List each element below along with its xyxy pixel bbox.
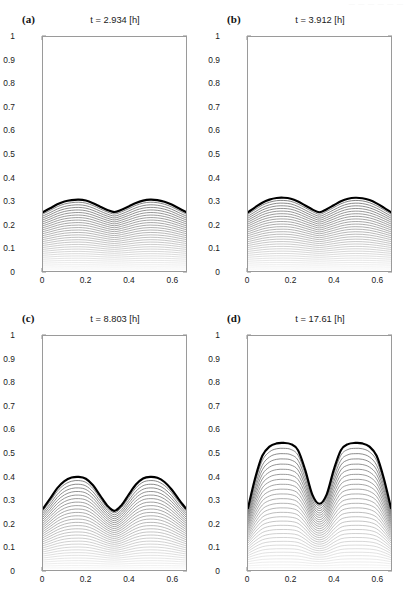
y-tick-label: 1 [215,32,220,40]
x-tick-label: 0.6 [167,276,179,284]
y-tick-label: 0 [215,268,220,276]
x-tick-label: 0.2 [80,276,92,284]
y-tick-label: 1 [10,32,15,40]
y-tick-label: 0.1 [3,543,15,551]
panel-b: (b)t = 3.912 [h]00.10.20.30.40.50.60.70.… [205,0,410,299]
contour-line [248,253,391,255]
y-tick-label: 0.3 [208,197,220,205]
contour-plot-b [248,37,391,271]
plot-area-b [247,36,392,272]
contour-levels [248,200,391,269]
y-tick-label: 0.9 [3,354,15,362]
y-tick-label: 0.9 [208,55,220,63]
y-tick-label: 1 [215,331,220,339]
x-tick-label: 0.4 [328,575,340,583]
contour-line [248,260,391,261]
x-tick-label: 0.6 [372,575,384,583]
figure-container: — — — — — — (a)t = 2.934 [h]00.10.20.30.… [0,0,410,598]
contour-line [248,258,391,259]
contour-levels [248,448,391,568]
y-tick-label: 0.8 [208,378,220,386]
y-tick-label: 0.9 [208,354,220,362]
y-tick-label: 0.5 [208,449,220,457]
x-tick-label: 0.2 [285,575,297,583]
y-tick-label: 0.7 [208,402,220,410]
contour-line [43,532,186,542]
contour-line [43,254,186,256]
y-tick-label: 0.3 [3,496,15,504]
contour-line [43,566,186,567]
y-tick-label: 0.1 [208,543,220,551]
x-tick-label: 0.4 [123,575,135,583]
panel-title-a: t = 2.934 [h] [40,16,190,25]
panel-title-c: t = 8.803 [h] [40,315,190,324]
panel-letter-b: (b) [227,14,241,25]
interface-contour [43,200,186,212]
y-tick-label: 0.5 [3,449,15,457]
interface-contour [248,443,391,508]
contour-line [43,256,186,257]
panel-c: (c)t = 8.803 [h]00.10.20.30.40.50.60.70.… [0,299,205,598]
y-tick-label: 1 [10,331,15,339]
y-tick-label: 0.2 [208,221,220,229]
contour-line [43,260,186,261]
contour-line [248,494,391,529]
y-tick-label: 0.1 [3,244,15,252]
contour-line [43,555,186,558]
x-tick-label: 0.2 [80,575,92,583]
contour-line [43,230,186,236]
contour-levels [43,481,186,569]
y-tick-label: 0.2 [3,221,15,229]
y-tick-label: 0.2 [3,520,15,528]
plot-area-d [247,335,392,571]
contour-line [43,232,186,237]
contour-line [43,263,186,264]
panel-letter-d: (d) [227,313,241,324]
panel-title-b: t = 3.912 [h] [245,16,395,25]
x-tick-label: 0 [40,276,45,284]
y-tick-label: 0.4 [208,472,220,480]
contour-line [43,563,186,564]
contour-line [43,561,186,563]
y-tick-label: 0.6 [208,126,220,134]
contour-plot-d [248,336,391,570]
contour-line [248,489,391,526]
y-tick-label: 0 [10,567,15,575]
panel-d: (d)t = 17.61 [h]00.10.20.30.40.50.60.70.… [205,299,410,598]
y-tick-label: 0.6 [208,425,220,433]
y-tick-label: 0.9 [3,55,15,63]
x-tick-label: 0 [245,276,250,284]
contour-line [248,549,391,556]
x-tick-label: 0 [245,575,250,583]
y-tick-label: 0.4 [3,173,15,181]
contour-line [248,562,391,564]
y-tick-label: 0 [10,268,15,276]
contour-line [43,544,186,550]
y-tick-label: 0.3 [208,496,220,504]
y-tick-label: 0.4 [208,173,220,181]
y-tick-label: 0.7 [3,402,15,410]
y-tick-label: 0.7 [3,103,15,111]
contour-line [43,215,186,224]
y-tick-label: 0.5 [208,150,220,158]
y-tick-label: 0.4 [3,472,15,480]
y-tick-label: 0.1 [208,244,220,252]
panel-letter-c: (c) [22,313,35,324]
panel-letter-a: (a) [22,14,35,25]
plot-area-a [42,36,187,272]
y-tick-label: 0.8 [208,79,220,87]
contour-plot-c [43,336,186,570]
x-tick-label: 0.6 [167,575,179,583]
y-tick-label: 0.6 [3,425,15,433]
x-tick-label: 0.4 [123,276,135,284]
contour-line [248,256,391,258]
panel-a: (a)t = 2.934 [h]00.10.20.30.40.50.60.70.… [0,0,205,299]
x-tick-label: 0.2 [285,276,297,284]
y-tick-label: 0.7 [208,103,220,111]
contour-line [43,251,186,253]
contour-line [43,506,186,527]
x-tick-label: 0.4 [328,276,340,284]
y-tick-label: 0 [215,567,220,575]
contour-line [248,537,391,549]
contour-line [43,258,186,259]
